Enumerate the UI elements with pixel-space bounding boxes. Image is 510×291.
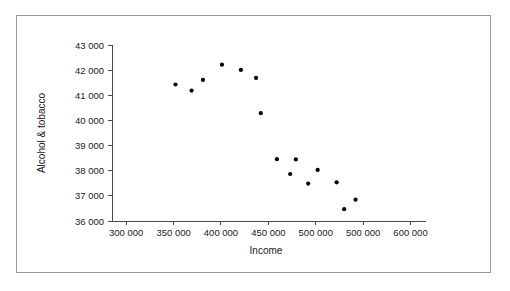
figure-container: 36 00037 00038 00039 00040 00041 00042 0… [0, 0, 510, 291]
y-tick-label: 39 000 [75, 140, 104, 151]
x-tick-label: 500 000 [346, 227, 380, 238]
chart-canvas: 36 00037 00038 00039 00040 00041 00042 0… [0, 0, 510, 291]
scatter-plot: 36 00037 00038 00039 00040 00041 00042 0… [0, 0, 510, 291]
data-point [353, 198, 357, 202]
x-tick-label: 500 000 [299, 227, 333, 238]
data-point [259, 111, 263, 115]
y-tick-label: 42 000 [75, 65, 104, 76]
data-point [294, 157, 298, 161]
y-tick-label: 40 000 [75, 115, 104, 126]
data-point [342, 207, 346, 211]
data-point [220, 63, 224, 67]
x-tick-label: 600 000 [393, 227, 427, 238]
data-point [201, 78, 205, 82]
x-tick-label: 400 000 [204, 227, 238, 238]
y-tick-label: 36 000 [75, 216, 104, 227]
y-axis-ticks: 36 00037 00038 00039 00040 00041 00042 0… [75, 40, 112, 227]
x-tick-label: 350 000 [156, 227, 190, 238]
data-point [254, 76, 258, 80]
y-tick-label: 38 000 [75, 165, 104, 176]
y-tick-label: 43 000 [75, 40, 104, 51]
data-point [335, 180, 339, 184]
x-tick-label: 300 000 [109, 227, 143, 238]
y-tick-label: 37 000 [75, 190, 104, 201]
data-point [190, 88, 194, 92]
data-point [275, 157, 279, 161]
data-points [173, 63, 357, 212]
x-axis-title: Income [250, 245, 283, 256]
x-tick-label: 450 000 [251, 227, 285, 238]
data-point [306, 181, 310, 185]
data-point [316, 168, 320, 172]
x-axis-ticks: 300 000350 000400 000450 000500 000500 0… [109, 221, 428, 238]
y-axis-title: Alcohol & tobacco [36, 93, 47, 173]
data-point [288, 172, 292, 176]
y-tick-label: 41 000 [75, 90, 104, 101]
data-point [239, 68, 243, 72]
data-point [173, 82, 177, 86]
